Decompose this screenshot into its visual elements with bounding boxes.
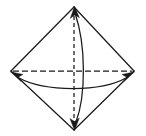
vertical-rotation-arc xyxy=(75,13,83,122)
vertical-rotation-arrow xyxy=(70,6,83,130)
horizontal-rotation-arrow xyxy=(10,72,134,89)
edge-top-left xyxy=(11,7,74,71)
vertical-arrow-head-bottom xyxy=(70,118,79,131)
diagram-canvas: Octahedron with rotation axes xyxy=(0,0,146,136)
horizontal-rotation-arc xyxy=(19,78,126,89)
vertical-arrow-head-top xyxy=(70,6,79,18)
edge-bottom-left xyxy=(11,71,74,130)
octahedron-outline xyxy=(11,7,134,130)
octahedron-rotation-diagram xyxy=(0,0,146,136)
symmetry-axes xyxy=(13,9,132,128)
